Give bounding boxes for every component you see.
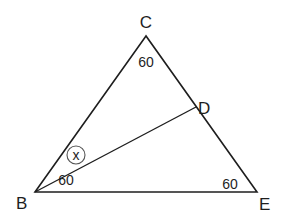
triangle-diagram: C D B E 60 60 60 x xyxy=(0,0,286,221)
diagram-canvas: C D B E 60 60 60 x xyxy=(0,0,286,221)
angle-b-label: 60 xyxy=(58,172,74,188)
vertex-b-label: B xyxy=(16,194,27,213)
angle-e-label: 60 xyxy=(222,176,238,192)
vertex-e-label: E xyxy=(259,195,270,214)
unknown-angle-label: x xyxy=(73,147,80,163)
angle-c-label: 60 xyxy=(138,54,154,70)
vertex-c-label: C xyxy=(140,13,152,32)
vertex-d-label: D xyxy=(198,99,210,118)
